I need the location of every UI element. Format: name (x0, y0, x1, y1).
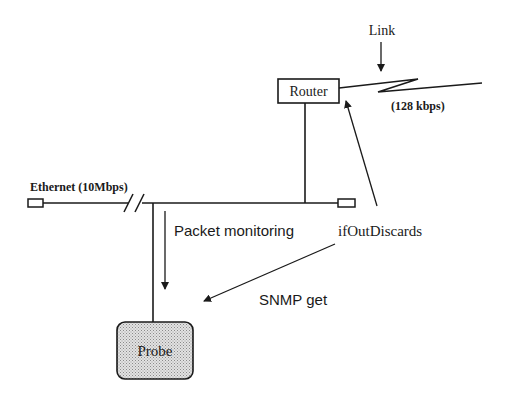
probe-node: Probe (117, 322, 193, 379)
snmp-get-label: SNMP get (259, 291, 328, 308)
link-label: Link (369, 23, 395, 38)
ethernet-terminator-right (338, 199, 355, 207)
link-speed-label: (128 kbps) (391, 99, 445, 113)
wan-link-line (339, 79, 482, 92)
probe-label: Probe (138, 343, 173, 359)
ethernet-label: Ethernet (10Mbps) (30, 180, 128, 194)
discards-to-router-arrow (346, 101, 377, 206)
router-node: Router (278, 79, 339, 103)
network-diagram: Link (128 kbps) Router Ethernet (10Mbps)… (0, 0, 510, 406)
if-out-discards-label: ifOutDiscards (338, 223, 422, 239)
packet-monitoring-label: Packet monitoring (174, 222, 294, 239)
router-label: Router (289, 84, 327, 99)
ethernet-terminator-left (28, 199, 43, 207)
